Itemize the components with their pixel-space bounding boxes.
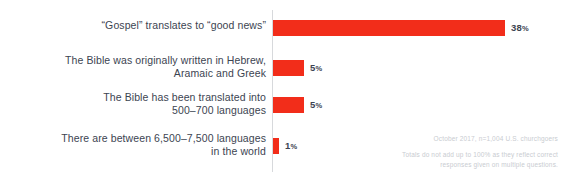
bar bbox=[273, 97, 304, 113]
value-number: 38 bbox=[511, 22, 522, 33]
source-footnote: October 2017, n=1,004 U.S. churchgoers bbox=[328, 134, 558, 144]
horizontal-bar-chart: “Gospel” translates to “good news” 38% T… bbox=[0, 0, 564, 179]
bar bbox=[273, 20, 505, 36]
category-label: The Bible has been translated into 500–7… bbox=[10, 91, 266, 116]
bar-group: 38% bbox=[273, 20, 529, 36]
category-label: “Gospel” translates to “good news” bbox=[10, 19, 266, 32]
bar-group: 5% bbox=[273, 97, 322, 113]
percent-sign: % bbox=[522, 24, 529, 33]
percent-sign: % bbox=[290, 142, 297, 151]
value-label: 5% bbox=[310, 97, 322, 114]
value-label: 5% bbox=[310, 60, 322, 77]
bar bbox=[273, 138, 279, 154]
methodology-footnote: Totals do not add up to 100% as they ref… bbox=[328, 150, 558, 169]
category-label: There are between 6,500–7,500 languages … bbox=[10, 132, 266, 157]
value-label: 38% bbox=[511, 20, 529, 37]
bar-group: 5% bbox=[273, 60, 322, 76]
bar bbox=[273, 60, 304, 76]
percent-sign: % bbox=[315, 101, 322, 110]
bar-group: 1% bbox=[273, 138, 297, 154]
category-label: The Bible was originally written in Hebr… bbox=[10, 54, 266, 79]
value-label: 1% bbox=[285, 138, 297, 155]
percent-sign: % bbox=[315, 64, 322, 73]
